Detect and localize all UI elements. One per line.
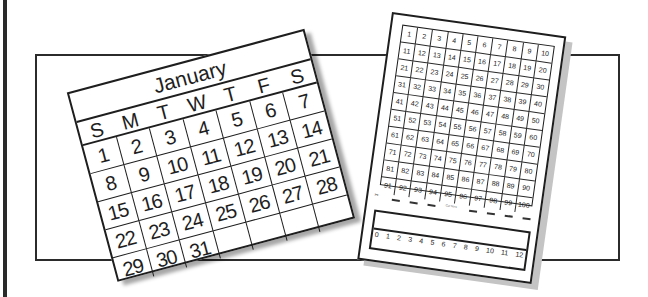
number-line-tick-label: 7: [452, 242, 457, 249]
cut-dash: [469, 210, 477, 213]
cut-dash: [427, 204, 435, 207]
number-line-tick-label: 2: [397, 234, 402, 241]
hundreds-chart-cell: 60: [524, 129, 541, 148]
cut-dash: [392, 199, 400, 202]
hundreds-chart-cell: 10: [536, 45, 553, 64]
hundreds-chart-cell: 70: [522, 146, 539, 165]
cut-dash: [487, 212, 495, 215]
number-line-tick-label: 12: [515, 251, 524, 259]
number-line-tick-label: 11: [501, 249, 509, 257]
hundreds-chart-cell: 90: [517, 179, 534, 198]
number-line-tick-label: 5: [430, 239, 435, 246]
number-line-tick-label: 3: [408, 236, 413, 243]
number-line-tick-label: 10: [486, 246, 495, 254]
number-line-tick-label: 0: [374, 231, 379, 238]
number-line-tick-label: 8: [463, 243, 468, 250]
hundreds-chart-grid: 1234567891011121314151617181920212223242…: [380, 25, 555, 207]
number-line-tick-label: 4: [419, 237, 424, 244]
scissors-icon: ✂: [374, 191, 379, 198]
hundreds-chart-worksheet: 1234567891011121314151617181920212223242…: [357, 12, 566, 284]
cut-dash: [410, 201, 418, 204]
hundreds-chart-cell: 50: [527, 112, 544, 131]
hundreds-chart-cell: 40: [529, 95, 546, 114]
hundreds-chart-cell: 80: [520, 163, 537, 182]
left-border-bar: [3, 0, 7, 297]
hundreds-chart-cell: 30: [532, 78, 549, 97]
cut-line-text: Cut here: [445, 203, 457, 209]
number-line-tick-label: 6: [441, 240, 446, 247]
cut-dash: [505, 215, 513, 218]
hundreds-chart-cell: 20: [534, 62, 551, 81]
number-line-tick-label: 1: [386, 232, 391, 239]
number-line-tick-label: 9: [475, 245, 480, 252]
cut-dash: [523, 217, 531, 220]
